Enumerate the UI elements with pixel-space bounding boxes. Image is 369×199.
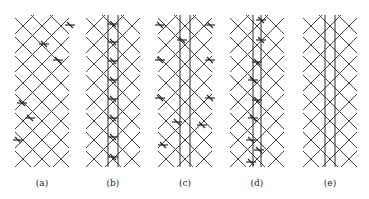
panel-label-e: (e) [324,178,336,188]
diagonal-lines [15,0,69,199]
panel-e [303,0,357,199]
diagonal-lines [158,0,212,199]
panel-label-a: (a) [36,178,48,188]
lattice-figure [0,0,369,199]
panel-b [86,0,140,199]
panel-label-b: (b) [107,178,120,188]
panel-label-d: (d) [251,178,264,188]
panel-d [230,0,284,199]
diagonal-lines [303,0,357,199]
panel-c [155,0,215,199]
panel-a [13,0,75,199]
panel-label-c: (c) [179,178,191,188]
